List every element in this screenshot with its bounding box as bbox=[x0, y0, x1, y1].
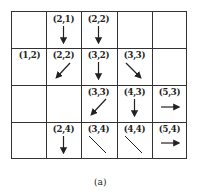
grid-cell: (2,2) bbox=[46, 48, 81, 85]
figure-caption: (a) bbox=[94, 177, 106, 187]
arrow-down-left-icon bbox=[81, 85, 116, 122]
diagonal-line-icon bbox=[117, 122, 152, 159]
grid-cell: (5,3) bbox=[152, 85, 187, 122]
grid-cell: (3,3) bbox=[81, 85, 116, 122]
arrow-down-left-icon bbox=[46, 48, 81, 85]
grid-cell: (5,4) bbox=[152, 122, 187, 159]
grid-cell: (2,2) bbox=[81, 12, 116, 49]
arrow-right-icon bbox=[152, 85, 187, 122]
diagonal-line-icon bbox=[81, 122, 116, 159]
grid-cell: (2,4) bbox=[46, 122, 81, 159]
arrow-down-icon bbox=[81, 12, 116, 49]
arrow-down-icon bbox=[117, 85, 152, 122]
arrow-right-icon bbox=[152, 122, 187, 159]
grid-cell: (3,3) bbox=[117, 48, 152, 85]
grid-cell: (4,3) bbox=[117, 85, 152, 122]
grid-cell: (3,2) bbox=[81, 48, 116, 85]
arrow-down-icon bbox=[46, 122, 81, 159]
arrow-down-right-icon bbox=[117, 48, 152, 85]
grid-cell: (1,2) bbox=[12, 48, 47, 85]
grid-cell: (4,4) bbox=[117, 122, 152, 159]
arrow-down-icon bbox=[81, 48, 116, 85]
grid-cell: (2,1) bbox=[46, 12, 81, 49]
traceback-grid: (2,1) (2,2) (1,2) (2,2) (3,2) (3,3) (3,3… bbox=[11, 11, 187, 159]
cell-label: (1,2) bbox=[12, 50, 47, 60]
arrow-down-icon bbox=[46, 12, 81, 49]
grid-cell: (3,4) bbox=[81, 122, 116, 159]
